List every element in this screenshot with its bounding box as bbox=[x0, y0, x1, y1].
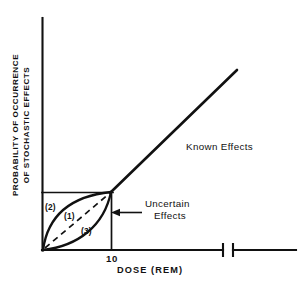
y-axis-label-line1: PROBABILITY OF OCCURRENCE bbox=[11, 54, 20, 196]
y-axis-label: PROBABILITY OF OCCURRENCE OF STOCHASTIC … bbox=[11, 54, 32, 196]
y-axis-label-wrapper: PROBABILITY OF OCCURRENCE OF STOCHASTIC … bbox=[0, 0, 42, 250]
y-axis-label-line2: OF STOCHASTIC EFFECTS bbox=[21, 67, 30, 184]
known-effects-curve bbox=[111, 70, 237, 192]
uncertain-effects-label: Uncertain Effects bbox=[145, 198, 190, 221]
curve-tag-2: (2) bbox=[45, 202, 56, 212]
curve-tag-3: (3) bbox=[81, 226, 92, 236]
curve-tag-1: (1) bbox=[64, 211, 75, 221]
uncertain-effects-line2: Effects bbox=[145, 210, 190, 222]
x-axis-tick-label-10: 10 bbox=[90, 253, 134, 264]
known-effects-label: Known Effects bbox=[186, 141, 253, 152]
uncertain-effects-line1: Uncertain bbox=[145, 198, 190, 209]
figure-root: PROBABILITY OF OCCURRENCE OF STOCHASTIC … bbox=[0, 0, 300, 287]
x-axis-label: DOSE (REM) bbox=[0, 265, 300, 275]
dose-response-plot bbox=[0, 0, 300, 287]
